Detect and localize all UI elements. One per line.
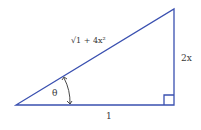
triangle-outline [16, 9, 174, 105]
right-angle-marker [164, 95, 174, 105]
base-label: 1 [106, 112, 112, 121]
angle-theta-label: θ [52, 89, 57, 98]
right-triangle-diagram: √1 + 4x² 2x 1 θ [0, 0, 201, 130]
angle-arc-icon [62, 77, 72, 104]
triangle-graphic [0, 0, 201, 130]
vertical-side-label: 2x [181, 54, 192, 63]
hypotenuse-label: √1 + 4x² [71, 37, 106, 45]
